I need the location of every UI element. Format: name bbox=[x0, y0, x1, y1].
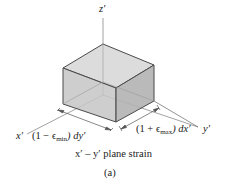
dimension-label-dy: (1 − ϵmin) dy′ bbox=[32, 131, 85, 143]
y-axis-label: y′ bbox=[203, 124, 210, 135]
z-axis-label: z′ bbox=[99, 4, 105, 15]
figure-caption: x′ – y′ plane strain bbox=[75, 149, 152, 160]
dimension-label-dx: (1 + ϵmax) dx′ bbox=[136, 124, 191, 136]
x-axis-label: x′ bbox=[16, 131, 23, 142]
panel-label: (a) bbox=[104, 168, 116, 179]
